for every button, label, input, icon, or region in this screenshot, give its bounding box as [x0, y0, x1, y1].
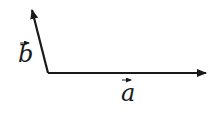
svg-text:a: a	[121, 79, 135, 107]
svg-text:b: b	[18, 40, 33, 68]
vector-diagram: a b	[0, 0, 219, 113]
diagram-canvas: a b	[0, 0, 219, 113]
vector-b-arrow	[32, 10, 48, 73]
vector-a-label: a	[121, 79, 135, 107]
vector-b-label: b	[18, 40, 33, 68]
